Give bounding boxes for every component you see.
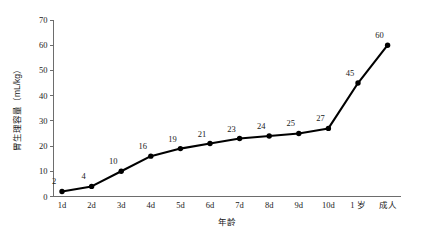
y-tick-label: 50 [39,65,48,75]
y-tick-label: 0 [43,192,47,202]
data-point-label: 19 [168,134,177,144]
data-point-label: 2 [52,176,56,186]
data-point [178,146,183,151]
x-axis-title: 年龄 [218,217,236,227]
data-point-label: 45 [346,68,355,78]
y-tick-label: 70 [39,15,48,25]
x-tick-label: 3d [117,200,126,210]
x-tick-label: 6d [206,200,215,210]
x-tick-label: 9d [295,200,304,210]
series-line [62,45,388,191]
series-data-labels: 2410161921232425274560 [52,30,384,186]
x-tick-label: 8d [265,200,274,210]
data-point-label: 4 [81,171,86,181]
data-point [385,43,390,48]
data-point [237,136,242,141]
x-tick-label: 2d [87,200,96,210]
x-axis-ticks: 1d2d3d4d5d6d7d8d9d10d1 岁成人 [58,200,397,210]
data-point-label: 24 [257,121,266,131]
y-tick-label: 40 [39,91,48,101]
x-tick-label: 4d [147,200,156,210]
y-tick-label: 60 [39,40,48,50]
data-point [326,126,331,131]
x-tick-label: 5d [176,200,185,210]
gastric-capacity-line-chart: 010203040506070 1d2d3d4d5d6d7d8d9d10d1 岁… [0,0,423,251]
data-point [207,141,212,146]
data-point [119,169,124,174]
series-markers [59,43,390,195]
chart-canvas: 010203040506070 1d2d3d4d5d6d7d8d9d10d1 岁… [0,0,423,251]
data-point [59,189,64,194]
x-tick-label: 1 岁 [350,200,365,210]
y-tick-label: 30 [39,116,48,126]
y-tick-label: 10 [39,166,48,176]
data-point [148,153,153,158]
data-point-label: 10 [109,156,118,166]
y-tick-label: 20 [39,141,48,151]
data-point [267,133,272,138]
data-point [89,184,94,189]
data-point [296,131,301,136]
data-point [355,80,360,85]
x-tick-label: 1d [58,200,67,210]
data-point-label: 21 [198,129,207,139]
y-axis-title: 胃生理容量（mL/kg） [12,65,22,151]
data-point-label: 60 [375,30,384,40]
data-point-label: 16 [139,141,148,151]
data-point-label: 27 [316,113,325,123]
x-tick-label: 成人 [379,200,397,210]
x-tick-label: 7d [235,200,244,210]
y-axis-ticks: 010203040506070 [39,15,54,202]
data-point-label: 25 [287,118,296,128]
x-tick-label: 10d [322,200,336,210]
data-point-label: 23 [227,124,236,134]
